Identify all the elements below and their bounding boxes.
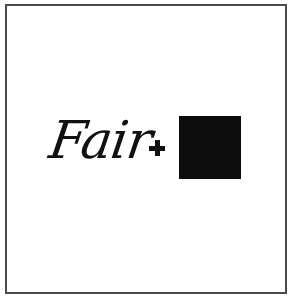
plus-icon bbox=[149, 140, 165, 156]
fair-word: Fair bbox=[46, 108, 156, 172]
black-square bbox=[179, 116, 241, 179]
plus-vertical-bar bbox=[155, 140, 160, 156]
